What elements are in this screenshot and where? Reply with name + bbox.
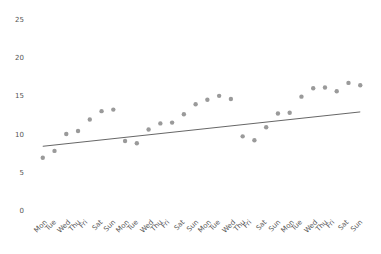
data-point — [358, 83, 362, 87]
data-point — [52, 149, 56, 153]
data-point — [299, 94, 303, 98]
data-point — [252, 138, 256, 142]
data-point — [41, 156, 45, 160]
data-point — [88, 117, 92, 121]
data-point — [287, 110, 291, 114]
data-point — [346, 81, 350, 85]
data-points — [41, 81, 363, 160]
data-point — [111, 107, 115, 111]
data-point — [158, 121, 162, 125]
data-point — [323, 85, 327, 89]
trend-line — [43, 112, 360, 146]
data-point — [311, 86, 315, 90]
data-point — [99, 109, 103, 113]
data-point — [170, 120, 174, 124]
data-point — [146, 127, 150, 131]
data-point — [264, 125, 268, 129]
data-point — [240, 134, 244, 138]
data-point — [335, 89, 339, 93]
data-point — [182, 112, 186, 116]
data-point — [276, 111, 280, 115]
data-point — [64, 132, 68, 136]
data-point — [217, 94, 221, 98]
data-point — [205, 97, 209, 101]
data-point — [229, 97, 233, 101]
scatter-chart: 0510152025 MonTueWedThuFriSatSunMonTueWe… — [0, 0, 381, 254]
trend-line-segment — [43, 112, 360, 146]
data-point — [123, 139, 127, 143]
data-point — [193, 102, 197, 106]
plot-area — [0, 0, 381, 254]
data-point — [135, 141, 139, 145]
data-point — [76, 129, 80, 133]
